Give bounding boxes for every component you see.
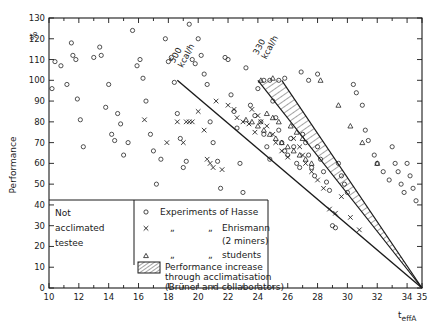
legend-item-hasse: Experiments of Hasse bbox=[144, 207, 259, 217]
legend-ditto-3: „ bbox=[170, 250, 175, 260]
x-tick-label: 24 bbox=[252, 292, 263, 302]
legend-band-line1: Performance increase bbox=[165, 262, 263, 272]
y-tick-label: 80 bbox=[34, 117, 45, 127]
legend-label-students: students bbox=[222, 250, 261, 260]
y-tick-label: 40 bbox=[34, 200, 45, 210]
chart-root: 1012141618202224262830323435 01020304050… bbox=[0, 0, 441, 328]
y-tick-label: 0 bbox=[40, 283, 45, 293]
performance-vs-teffa-scatter-chart: 1012141618202224262830323435 01020304050… bbox=[0, 0, 441, 328]
x-tick-label: 28 bbox=[312, 292, 323, 302]
y-axis-title: Performance bbox=[8, 136, 18, 193]
x-tick-label: 22 bbox=[223, 292, 234, 302]
legend-band-line2: through acclimatisation bbox=[165, 272, 271, 282]
x-tick-label: 32 bbox=[372, 292, 383, 302]
y-tick-label: 30 bbox=[34, 221, 45, 231]
x-tick-label: 18 bbox=[163, 292, 174, 302]
not-acclimated-line3: testee bbox=[55, 238, 84, 248]
y-tick-label: 50 bbox=[34, 179, 45, 189]
legend-label-ehrismann: Ehrismann bbox=[222, 223, 270, 233]
x-tick-label: 30 bbox=[342, 292, 353, 302]
y-axis-unit-label: % bbox=[29, 31, 39, 40]
y-tick-label: 130 bbox=[29, 13, 45, 23]
x-axis-title-sub: effA bbox=[402, 314, 418, 323]
x-tick-label: 35 bbox=[417, 292, 428, 302]
x-tick-label: 26 bbox=[282, 292, 293, 302]
legend-ditto-1: „ bbox=[170, 223, 175, 233]
not-acclimated-line2: acclimated bbox=[55, 223, 104, 233]
x-tick-label: 16 bbox=[133, 292, 144, 302]
y-tick-label: 100 bbox=[29, 75, 45, 85]
x-tick-label: 10 bbox=[44, 292, 55, 302]
x-tick-label: 20 bbox=[193, 292, 204, 302]
hatched-swatch-icon bbox=[138, 262, 160, 273]
x-tick-label: 34 bbox=[402, 292, 413, 302]
y-tick-label: 90 bbox=[34, 96, 45, 106]
legend-ditto-4: „ bbox=[208, 250, 213, 260]
x-tick-label: 12 bbox=[73, 292, 84, 302]
y-tick-label: 70 bbox=[34, 138, 45, 148]
legend-ditto-2: „ bbox=[208, 223, 213, 233]
legend-label-ehrismann-extra: (2 miners) bbox=[222, 236, 269, 246]
y-tick-label: 20 bbox=[34, 241, 45, 251]
y-tick-label: 110 bbox=[29, 55, 45, 65]
not-acclimated-line1: Not bbox=[55, 208, 71, 218]
legend-label-hasse: Experiments of Hasse bbox=[160, 207, 259, 217]
legend-band-line3: (Brüner and collaborators) bbox=[165, 282, 284, 292]
y-tick-label: 10 bbox=[34, 262, 45, 272]
y-tick-label: 60 bbox=[34, 158, 45, 168]
x-tick-label: 14 bbox=[103, 292, 114, 302]
